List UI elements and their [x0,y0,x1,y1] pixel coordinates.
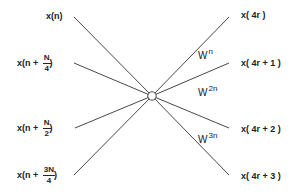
input-label-text: x(n + [17,170,38,180]
summing-node [148,92,156,100]
twiddle-exponent: 2n [208,84,217,93]
input-label-1: x(n + N 4 ) [17,54,53,73]
twiddle-exponent: 3n [208,131,217,140]
output-line-1 [152,63,229,96]
input-label-text: x(n + [17,123,38,133]
close-paren: ) [54,170,57,180]
close-paren: ) [50,58,53,68]
close-paren: ) [50,123,53,133]
output-label-1: x( 4r + 1 ) [241,59,281,68]
input-line-3 [74,96,152,175]
input-line-2 [75,96,152,128]
input-line-0 [74,17,152,96]
output-line-3 [152,96,229,175]
output-line-0 [152,17,229,96]
input-label-2: x(n + N 2 ) [17,119,53,138]
twiddle-base: W [198,50,207,61]
twiddle-w-n: Wn [198,51,213,61]
output-line-2 [152,96,229,128]
twiddle-base: W [198,134,207,145]
input-line-1 [74,63,152,96]
input-label-text: x(n + [17,58,38,68]
twiddle-w-3n: W3n [198,135,217,145]
twiddle-exponent: n [208,47,212,56]
input-label-0: x(n) [46,12,63,21]
output-label-0: x( 4r ) [241,11,266,20]
twiddle-w-2n: W2n [198,88,217,98]
input-label-text: x(n) [46,11,63,21]
twiddle-base: W [198,87,207,98]
output-label-3: x( 4r + 3 ) [241,172,281,181]
input-label-3: x(n + 3N 4 ) [17,166,57,185]
output-label-2: x( 4r + 2 ) [241,125,281,134]
